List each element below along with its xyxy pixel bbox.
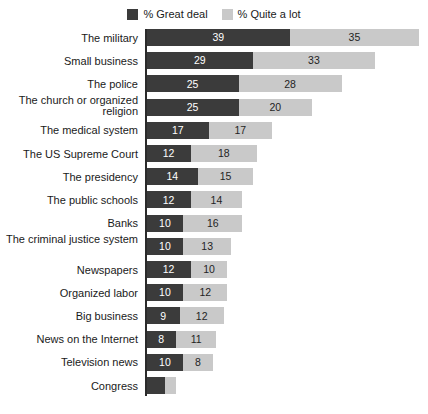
bar-segment-great-deal: 14	[147, 168, 199, 185]
bar-value-great-deal: 10	[159, 241, 171, 252]
chart-row: Newspapers1210	[0, 261, 428, 278]
stacked-bar: 912	[147, 307, 224, 324]
legend-label: % Quite a lot	[238, 9, 301, 20]
category-label: News on the Internet	[0, 333, 138, 345]
legend-entry-1: % Quite a lot	[222, 9, 301, 20]
stacked-bar: 1016	[147, 215, 243, 232]
chart-row: Small business2933	[0, 52, 428, 69]
bar-value-great-deal: 14	[166, 171, 178, 182]
stacked-bar: 1214	[147, 191, 243, 208]
category-label: The public schools	[0, 194, 138, 206]
chart-row: The public schools1214	[0, 191, 428, 208]
bar-segment-quite-a-lot: 3	[165, 377, 176, 394]
bar-value-great-deal: 9	[160, 311, 166, 322]
chart-row: News on the Internet811	[0, 331, 428, 348]
bar-value-great-deal: 17	[172, 125, 184, 136]
bar-segment-quite-a-lot: 8	[183, 354, 212, 371]
bar-value-quite-a-lot: 35	[349, 32, 361, 43]
bar-segment-great-deal: 12	[147, 145, 191, 162]
bar-value-quite-a-lot: 17	[234, 125, 246, 136]
category-label: The police	[0, 78, 138, 90]
chart-row: The church or organized religion2520	[0, 99, 428, 116]
category-label: The medical system	[0, 124, 138, 136]
bar-segment-great-deal: 25	[147, 75, 239, 92]
bar-segment-quite-a-lot: 35	[290, 29, 419, 46]
stacked-bar: 1013	[147, 238, 232, 255]
bar-segment-great-deal: 10	[147, 284, 184, 301]
bar-segment-quite-a-lot: 10	[191, 261, 228, 278]
stacked-bar: 1218	[147, 145, 257, 162]
chart-row: The military3935	[0, 29, 428, 46]
bar-value-great-deal: 25	[187, 102, 199, 113]
bar-value-great-deal: 8	[158, 334, 164, 345]
bar-value-quite-a-lot: 18	[218, 148, 230, 159]
category-label: Congress	[0, 380, 138, 392]
bar-value-quite-a-lot: 15	[220, 171, 232, 182]
bar-value-great-deal: 10	[159, 357, 171, 368]
bar-value-quite-a-lot: 16	[207, 218, 219, 229]
bar-segment-quite-a-lot: 14	[191, 191, 243, 208]
bar-value-quite-a-lot: 12	[200, 287, 212, 298]
bar-value-great-deal: 10	[159, 287, 171, 298]
bar-value-quite-a-lot: 33	[308, 55, 320, 66]
bar-value-quite-a-lot: 28	[284, 79, 296, 90]
legend-swatch-great-deal	[127, 9, 138, 20]
bar-value-quite-a-lot: 8	[195, 357, 201, 368]
bar-value-great-deal: 10	[159, 218, 171, 229]
bar-value-great-deal: 12	[163, 148, 175, 159]
bar-segment-quite-a-lot: 12	[180, 307, 224, 324]
bar-value-quite-a-lot: 14	[211, 195, 223, 206]
stacked-bar: 1415	[147, 168, 254, 185]
category-label: Banks	[0, 217, 138, 229]
bar-value-quite-a-lot: 20	[269, 102, 281, 113]
chart-row: Big business912	[0, 307, 428, 324]
chart-row: Television news108	[0, 354, 428, 371]
legend-entry-0: % Great deal	[127, 9, 207, 20]
chart-row: The US Supreme Court1218	[0, 145, 428, 162]
chart-row: The criminal justice system1013	[0, 238, 428, 255]
chart-row: Banks1016	[0, 215, 428, 232]
bar-segment-great-deal: 29	[147, 52, 254, 69]
stacked-bar: 108	[147, 354, 213, 371]
category-label: Big business	[0, 310, 138, 322]
category-label: The church or organized religion	[0, 95, 138, 118]
bar-segment-great-deal: 9	[147, 307, 180, 324]
category-label: Organized labor	[0, 287, 138, 299]
bar-segment-great-deal: 5	[147, 377, 165, 394]
bar-segment-great-deal: 39	[147, 29, 291, 46]
bar-segment-great-deal: 10	[147, 238, 184, 255]
bar-value-great-deal: 12	[163, 195, 175, 206]
chart-row: Congress53	[0, 377, 428, 394]
bar-segment-quite-a-lot: 11	[176, 331, 216, 348]
stacked-bar: 3935	[147, 29, 419, 46]
bar-value-great-deal: 25	[187, 79, 199, 90]
bar-segment-quite-a-lot: 13	[183, 238, 231, 255]
bar-segment-quite-a-lot: 12	[183, 284, 227, 301]
bar-segment-quite-a-lot: 16	[183, 215, 242, 232]
stacked-bar: 53	[147, 377, 176, 394]
bar-segment-quite-a-lot: 15	[198, 168, 253, 185]
bar-segment-great-deal: 25	[147, 99, 239, 116]
category-label: The criminal justice system	[0, 234, 138, 246]
bar-value-quite-a-lot: 10	[203, 264, 215, 275]
category-label: Newspapers	[0, 264, 138, 276]
legend-swatch-quite-a-lot	[222, 9, 233, 20]
stacked-bar: 811	[147, 331, 217, 348]
bar-value-quite-a-lot: 12	[196, 311, 208, 322]
bar-segment-great-deal: 12	[147, 261, 191, 278]
bar-value-great-deal: 29	[194, 55, 206, 66]
stacked-bar: 2528	[147, 75, 342, 92]
bar-segment-quite-a-lot: 33	[253, 52, 374, 69]
bar-value-great-deal: 12	[163, 264, 175, 275]
bar-value-great-deal: 39	[212, 32, 224, 43]
bar-segment-quite-a-lot: 17	[209, 122, 272, 139]
stacked-bar: 2520	[147, 99, 313, 116]
bar-segment-great-deal: 17	[147, 122, 210, 139]
chart-row: The presidency1415	[0, 168, 428, 185]
bar-segment-quite-a-lot: 18	[191, 145, 257, 162]
chart-legend: % Great deal% Quite a lot	[0, 6, 428, 22]
chart-row: Organized labor1012	[0, 284, 428, 301]
category-label: The military	[0, 32, 138, 44]
category-label: Small business	[0, 55, 138, 67]
category-label: Television news	[0, 356, 138, 368]
